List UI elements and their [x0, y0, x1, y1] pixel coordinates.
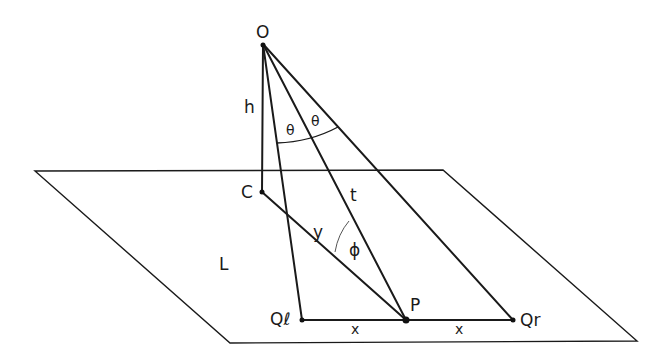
label-C: C: [241, 182, 253, 202]
segment-OP-t: [263, 44, 406, 320]
label-P: P: [410, 295, 420, 315]
point-C: [260, 190, 265, 195]
segment-OQl: [263, 44, 302, 320]
segment-CP-y: [262, 192, 406, 320]
label-y: y: [313, 222, 323, 242]
point-P: [403, 317, 410, 324]
label-Ql: Qℓ: [270, 309, 290, 329]
label-x-left: x: [351, 321, 359, 337]
segment-OC-height: [262, 44, 263, 192]
label-x-right: x: [455, 321, 463, 337]
point-O: [261, 43, 266, 48]
geometry-diagram: O h θ θ C t y ϕ L Qℓ P Qr x x: [0, 0, 670, 356]
label-t: t: [350, 185, 357, 205]
label-theta-right: θ: [311, 113, 320, 129]
label-Qr: Qr: [520, 310, 540, 330]
label-theta-left: θ: [286, 122, 295, 138]
point-Ql: [300, 318, 305, 323]
label-h: h: [244, 97, 255, 117]
phi-arc: [335, 221, 349, 252]
segment-OQr: [263, 44, 513, 320]
label-O: O: [256, 22, 269, 42]
label-phi: ϕ: [349, 240, 360, 260]
label-L: L: [219, 254, 229, 274]
point-Qr: [511, 318, 516, 323]
